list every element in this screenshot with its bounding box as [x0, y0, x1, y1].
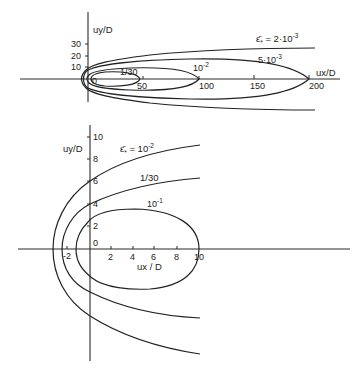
bottom-x-tick-label: 4 [130, 252, 135, 262]
bottom-x-tick-label: -2 [63, 251, 71, 261]
bottom-y-axis-label: uy/D [63, 143, 83, 154]
bottom-x-tick-label: 8 [174, 252, 179, 262]
bottom-plot: 10 8 6 4 2 0 uy/D -2 2 4 6 8 10 ux / D ε… [18, 125, 350, 361]
top-x-axis-label: ux/D [316, 67, 336, 78]
top-x-tick-label: 150 [250, 81, 265, 91]
bottom-curve-1-30 [62, 178, 200, 318]
top-x-tick-label: 100 [199, 81, 214, 91]
top-y-tick-label: 10 [71, 62, 81, 72]
bottom-y-tick-label: 2 [93, 221, 98, 231]
bottom-label-1-30: 1/30 [140, 172, 159, 183]
bottom-y-tick-label: 8 [93, 154, 98, 164]
top-label-5e-3: 5·10-3 [258, 53, 282, 65]
bottom-label-1e-1: 10-1 [147, 197, 163, 209]
top-x-tick-label: 50 [137, 81, 147, 91]
top-label-1-30: 1/30 [120, 67, 138, 77]
bottom-y-tick-label: 10 [93, 132, 103, 142]
top-label-1e-2: 10-2 [193, 61, 209, 73]
top-x-tick-label: 200 [309, 81, 324, 91]
top-y-tick-label: 20 [71, 51, 81, 61]
top-plot: 30 20 10 uy/D 50 100 150 200 ux/D 0 ε̄* … [20, 12, 340, 110]
top-label-2e-3: ε̄* = 2·10-3 [256, 32, 299, 46]
bottom-label-1e-2: ε̄* = 10-2 [120, 142, 154, 156]
top-y-axis-label: uy/D [93, 24, 113, 35]
bottom-x-axis-label: ux / D [137, 261, 162, 272]
bottom-x-tick-label: 2 [108, 252, 113, 262]
bottom-origin-label: 0 [93, 238, 98, 248]
top-y-tick-label: 30 [71, 39, 81, 49]
figure: 30 20 10 uy/D 50 100 150 200 ux/D 0 ε̄* … [0, 0, 362, 375]
